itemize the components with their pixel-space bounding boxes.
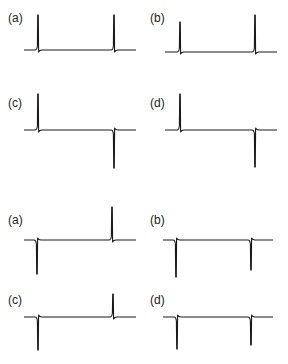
panel-label: (b) [150,214,165,226]
panel-label: (c) [8,97,22,109]
spectrum-trace [24,207,136,274]
spectra-figure: (a)(b)(c)(d)(a)(b)(c)(d) [0,0,288,364]
panel-label: (b) [150,12,165,24]
spectrum-trace [24,294,136,350]
spectrum-trace [24,94,136,168]
spectrum-trace [24,15,136,52]
spectrum-trace [163,315,273,349]
spectra-plot-area [0,0,288,364]
panel-label: (a) [8,214,23,226]
spectrum-trace [165,94,277,167]
panel-label: (d) [150,294,165,306]
spectrum-trace [165,15,277,54]
panel-label: (c) [8,294,22,306]
panel-label: (d) [150,97,165,109]
spectrum-trace [163,238,273,277]
panel-label: (a) [8,12,23,24]
